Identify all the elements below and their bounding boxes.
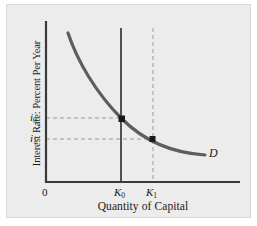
figure-container: Interest Rate: Percent Per Year Quantity… bbox=[0, 0, 257, 226]
xtick-label-k0: K0 bbox=[114, 186, 125, 200]
xtick-label-k1-sub: 1 bbox=[153, 191, 157, 200]
xtick-label-k0-sub: 0 bbox=[121, 191, 125, 200]
demand-curve bbox=[68, 33, 205, 155]
demand-curve-label: D bbox=[209, 146, 218, 161]
xtick-label-k1: K1 bbox=[146, 186, 157, 200]
ytick-label-i1: i1 bbox=[30, 132, 37, 146]
ytick-label-i0-sub: 0 bbox=[33, 116, 37, 125]
y-axis-title: Interest Rate: Percent Per Year bbox=[31, 24, 42, 184]
point-k1-i1 bbox=[150, 136, 156, 142]
point-k0-i0 bbox=[119, 116, 126, 123]
ytick-label-i0: i0 bbox=[30, 111, 37, 125]
x-axis-title: Quantity of Capital bbox=[46, 200, 240, 212]
ytick-label-i1-sub: 1 bbox=[33, 137, 37, 146]
origin-label: 0 bbox=[42, 186, 48, 198]
